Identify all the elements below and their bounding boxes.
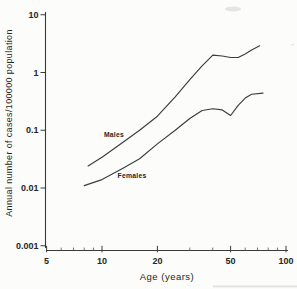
- scanned-chart-figure: 1010.10.010.001 5102050100 Males Females…: [0, 0, 297, 289]
- females-curve-label: Females: [118, 172, 147, 179]
- females-curve: [84, 93, 263, 186]
- x-axis-ticks: [47, 246, 286, 253]
- y-axis-title: Annual number of cases/100000 population: [4, 29, 14, 217]
- y-tick-label: 1: [33, 68, 38, 78]
- scan-streak: [213, 286, 297, 288]
- x-tick-label: 50: [226, 256, 236, 266]
- y-tick-label: 0.01: [21, 183, 39, 193]
- x-tick-label: 100: [278, 256, 293, 266]
- y-tick-label: 0.1: [26, 125, 39, 135]
- y-tick-label: 0.001: [16, 241, 39, 251]
- y-tick-label: 10: [28, 10, 38, 20]
- scan-smudge: [225, 7, 241, 12]
- x-tick-label: 10: [97, 256, 107, 266]
- data-curves: [84, 46, 263, 186]
- x-tick-label: 5: [44, 256, 49, 266]
- scan-speck: [291, 44, 294, 45]
- y-axis-tick-labels: 1010.10.010.001: [16, 10, 39, 251]
- log-log-line-chart: 1010.10.010.001 5102050100 Males Females…: [0, 0, 297, 289]
- males-curve-label: Males: [104, 131, 124, 138]
- x-tick-label: 20: [152, 256, 162, 266]
- x-axis-title: Age (years): [140, 271, 195, 282]
- x-axis-tick-labels: 5102050100: [44, 256, 293, 266]
- males-curve: [88, 46, 260, 166]
